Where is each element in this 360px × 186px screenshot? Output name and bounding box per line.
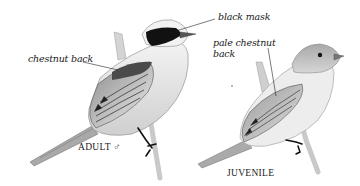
birds-illustration bbox=[0, 0, 360, 186]
pale-chestnut-back-line1: pale chestnut bbox=[213, 37, 276, 48]
raised-tail-tip bbox=[114, 32, 126, 60]
pale-chestnut-back-annotation: pale chestnut back bbox=[213, 37, 276, 59]
field-guide-plate: black mask chestnut back pale chestnut b… bbox=[0, 0, 360, 186]
adult-male-caption: ADULT ♂ bbox=[78, 142, 121, 152]
chestnut-back-annotation: chestnut back bbox=[28, 53, 93, 64]
juvenile-bird bbox=[198, 44, 344, 172]
juvenile-tail bbox=[198, 140, 252, 168]
juvenile-feet bbox=[286, 140, 302, 154]
black-mask-annotation: black mask bbox=[218, 11, 270, 22]
pale-chestnut-back-line2: back bbox=[213, 48, 276, 59]
adult-beak bbox=[180, 32, 196, 38]
juvenile-caption: JUVENILE bbox=[227, 168, 274, 178]
adult-bird bbox=[30, 20, 196, 178]
juvenile-eye bbox=[318, 53, 322, 57]
